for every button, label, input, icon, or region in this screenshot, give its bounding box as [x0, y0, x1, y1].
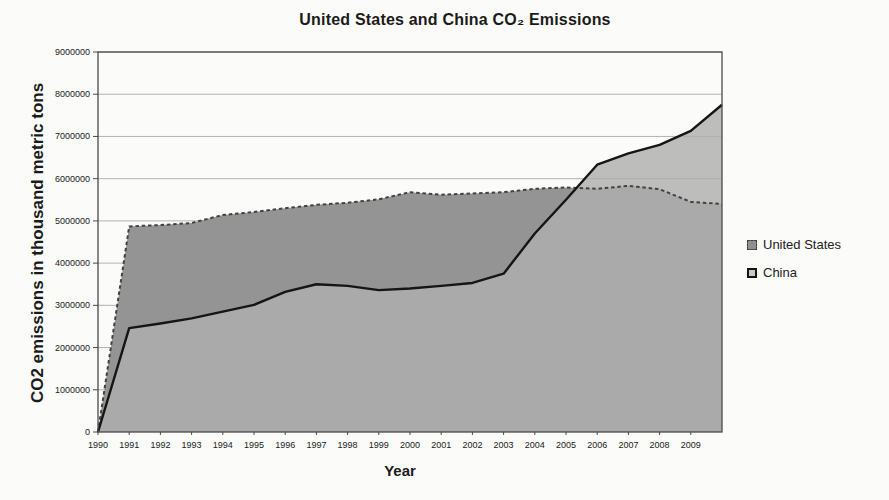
- svg-text:1999: 1999: [369, 440, 389, 450]
- svg-text:1990: 1990: [88, 440, 108, 450]
- svg-text:2009: 2009: [681, 440, 701, 450]
- svg-text:2000000: 2000000: [55, 343, 90, 353]
- svg-text:1993: 1993: [182, 440, 202, 450]
- svg-text:2000: 2000: [400, 440, 420, 450]
- x-axis-title: Year: [384, 462, 416, 479]
- svg-text:7000000: 7000000: [55, 131, 90, 141]
- svg-text:1996: 1996: [275, 440, 295, 450]
- svg-text:2008: 2008: [650, 440, 670, 450]
- svg-text:2001: 2001: [431, 440, 451, 450]
- svg-text:2005: 2005: [556, 440, 576, 450]
- legend-swatch-china-icon: [747, 268, 757, 278]
- svg-text:2006: 2006: [587, 440, 607, 450]
- svg-text:9000000: 9000000: [55, 47, 90, 57]
- svg-text:2007: 2007: [618, 440, 638, 450]
- svg-text:1998: 1998: [338, 440, 358, 450]
- svg-text:1991: 1991: [119, 440, 139, 450]
- svg-text:2004: 2004: [525, 440, 545, 450]
- legend-item-united-states: United States: [747, 237, 841, 252]
- legend-item-china: China: [747, 265, 841, 280]
- svg-text:1997: 1997: [306, 440, 326, 450]
- legend-label-united-states: United States: [763, 237, 841, 252]
- svg-text:6000000: 6000000: [55, 174, 90, 184]
- svg-text:8000000: 8000000: [55, 89, 90, 99]
- svg-text:2002: 2002: [462, 440, 482, 450]
- svg-text:5000000: 5000000: [55, 216, 90, 226]
- chart: United States and China CO₂ Emissions CO…: [0, 0, 889, 500]
- svg-text:3000000: 3000000: [55, 300, 90, 310]
- legend: United States China: [747, 237, 841, 280]
- svg-text:4000000: 4000000: [55, 258, 90, 268]
- svg-text:1000000: 1000000: [55, 385, 90, 395]
- svg-text:1995: 1995: [244, 440, 264, 450]
- legend-swatch-united-states-icon: [747, 240, 757, 250]
- svg-text:1992: 1992: [150, 440, 170, 450]
- legend-label-china: China: [763, 265, 797, 280]
- svg-text:0: 0: [85, 427, 90, 437]
- svg-text:1994: 1994: [213, 440, 233, 450]
- svg-text:2003: 2003: [494, 440, 514, 450]
